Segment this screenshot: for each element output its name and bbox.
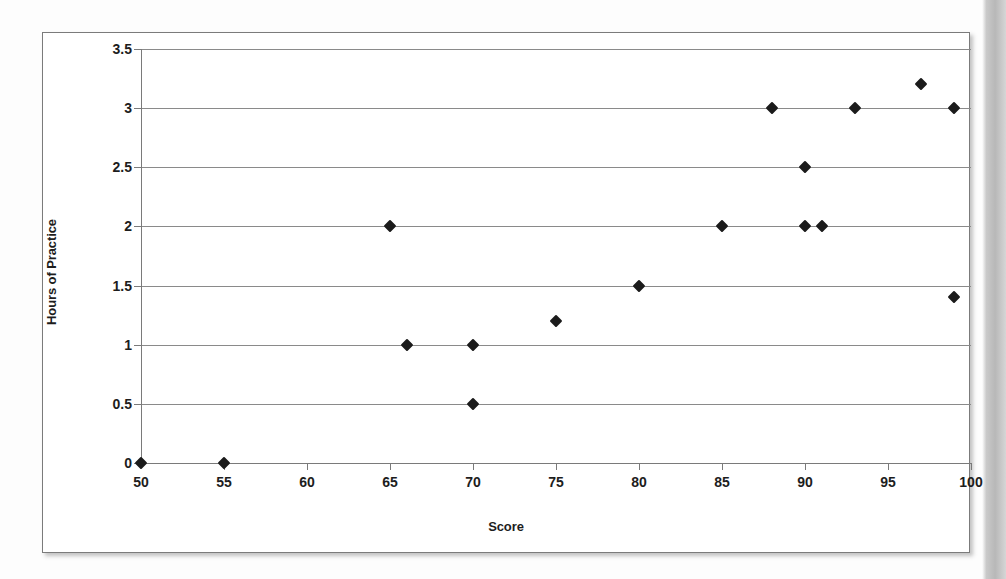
data-point[interactable]	[400, 338, 413, 351]
data-point[interactable]	[218, 457, 231, 470]
x-tick-mark	[473, 463, 474, 470]
x-tick-label: 100	[959, 474, 982, 490]
data-point[interactable]	[848, 102, 861, 115]
data-point[interactable]	[467, 397, 480, 410]
data-point[interactable]	[633, 279, 646, 292]
data-point[interactable]	[799, 220, 812, 233]
gridline	[141, 49, 971, 50]
y-axis-title: Hours of Practice	[44, 219, 59, 325]
y-tick-label: 3	[124, 100, 132, 116]
y-tick-mark	[134, 167, 141, 168]
y-tick-mark	[134, 49, 141, 50]
y-tick-mark	[134, 226, 141, 227]
y-tick-mark	[134, 345, 141, 346]
x-tick-mark	[805, 463, 806, 470]
x-tick-label: 75	[548, 474, 564, 490]
data-point[interactable]	[550, 315, 563, 328]
data-point[interactable]	[765, 102, 778, 115]
y-tick-label: 0.5	[113, 396, 132, 412]
x-tick-mark	[390, 463, 391, 470]
chart-frame: Hours of Practice Score 00.511.522.533.5…	[42, 32, 970, 553]
data-point[interactable]	[467, 338, 480, 351]
gridline	[141, 286, 971, 287]
data-point[interactable]	[716, 220, 729, 233]
gridline	[141, 404, 971, 405]
y-tick-label: 2.5	[113, 159, 132, 175]
y-tick-label: 1	[124, 337, 132, 353]
x-tick-label: 50	[133, 474, 149, 490]
x-tick-mark	[888, 463, 889, 470]
x-tick-mark	[722, 463, 723, 470]
y-tick-label: 3.5	[113, 41, 132, 57]
data-point[interactable]	[948, 291, 961, 304]
data-point[interactable]	[135, 457, 148, 470]
x-tick-mark	[639, 463, 640, 470]
y-tick-label: 1.5	[113, 278, 132, 294]
x-tick-mark	[556, 463, 557, 470]
gridline	[141, 167, 971, 168]
gridline	[141, 108, 971, 109]
y-tick-label: 2	[124, 218, 132, 234]
x-tick-label: 90	[797, 474, 813, 490]
scatter-plot-area: Hours of Practice Score 00.511.522.533.5…	[43, 33, 969, 552]
x-tick-label: 55	[216, 474, 232, 490]
y-tick-mark	[134, 404, 141, 405]
x-tick-label: 60	[299, 474, 315, 490]
x-tick-mark	[971, 463, 972, 470]
x-tick-label: 65	[382, 474, 398, 490]
data-point[interactable]	[815, 220, 828, 233]
y-axis-line	[141, 49, 142, 463]
x-tick-label: 80	[631, 474, 647, 490]
data-point[interactable]	[915, 78, 928, 91]
y-tick-label: 0	[124, 455, 132, 471]
data-point[interactable]	[948, 102, 961, 115]
page-edge-shadow	[982, 0, 1006, 579]
x-tick-label: 85	[714, 474, 730, 490]
gridline	[141, 226, 971, 227]
gridline	[141, 345, 971, 346]
data-point[interactable]	[384, 220, 397, 233]
x-tick-label: 95	[880, 474, 896, 490]
x-tick-mark	[307, 463, 308, 470]
x-tick-label: 70	[465, 474, 481, 490]
y-tick-mark	[134, 286, 141, 287]
data-point[interactable]	[799, 161, 812, 174]
y-tick-mark	[134, 108, 141, 109]
x-axis-title: Score	[43, 519, 969, 534]
